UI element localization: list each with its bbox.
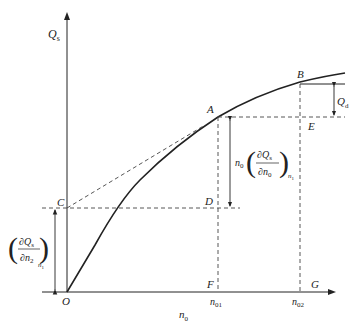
point-B-label: B (297, 68, 304, 80)
svg-text:(: ( (8, 231, 18, 265)
Qd-label: Qd (337, 95, 349, 110)
y-axis-label: Qs (48, 27, 60, 43)
point-D-label: D (204, 195, 213, 207)
point-E-label: E (307, 120, 315, 132)
svg-text:n0: n0 (235, 157, 244, 170)
OC-derivative-expression: ( ∂Qs ∂n2 ) n1 (8, 231, 49, 270)
AD-derivative-expression: n0 ( ∂Qs ∂n0 ) n1 (235, 145, 295, 181)
tick-n02: n02 (292, 296, 305, 309)
x-axis-label: n0 (179, 308, 189, 323)
tick-n01: n01 (210, 296, 223, 309)
svg-text:∂Qs: ∂Qs (19, 236, 34, 249)
point-G-label: G (311, 278, 319, 290)
svg-text:): ) (39, 231, 49, 265)
point-F-label: F (206, 278, 214, 290)
svg-text:∂n2: ∂n2 (20, 252, 34, 265)
performance-curve (67, 73, 345, 292)
origin-label: O (62, 295, 70, 307)
diagram-svg: Qs O n0 C A B D E F G n01 n02 Qd n0 ( ∂Q… (0, 0, 359, 331)
svg-text:n1: n1 (288, 172, 295, 181)
tangent-line-CA (67, 125, 205, 208)
point-C-label: C (57, 196, 65, 208)
svg-text:∂Qs: ∂Qs (257, 149, 272, 162)
point-A-label: A (206, 103, 214, 115)
diagram-canvas: Qs O n0 C A B D E F G n01 n02 Qd n0 ( ∂Q… (0, 0, 359, 331)
svg-text:∂n0: ∂n0 (258, 166, 272, 179)
svg-text:(: ( (246, 145, 256, 179)
